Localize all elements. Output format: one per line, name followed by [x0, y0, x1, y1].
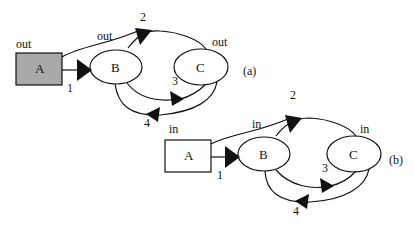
- edge-label-3: 3: [172, 74, 178, 88]
- arrowhead-1-icon: [77, 59, 92, 81]
- node-b-label: B: [259, 147, 268, 162]
- node-b-label: B: [111, 60, 120, 75]
- port-label-b: out: [97, 29, 113, 43]
- port-label-a: in: [169, 122, 178, 136]
- edge-3: [276, 170, 356, 187]
- edge-label-2: 2: [290, 88, 296, 102]
- node-c-label: C: [196, 60, 205, 75]
- edge-label-4: 4: [293, 204, 299, 218]
- edge-label-3: 3: [322, 161, 328, 175]
- edge-label-1: 1: [67, 81, 73, 95]
- caption-a: (a): [243, 64, 256, 78]
- port-label-c: out: [212, 35, 228, 49]
- arrowhead-2-icon: [135, 28, 152, 45]
- edge-3: [127, 83, 205, 100]
- arrowhead-1-icon: [225, 146, 240, 168]
- port-label-b: in: [252, 117, 261, 131]
- node-c-label: C: [349, 147, 358, 162]
- edge-label-2: 2: [140, 10, 146, 24]
- node-a-label: A: [35, 61, 45, 76]
- port-label-c: in: [360, 122, 369, 136]
- edge-label-1: 1: [217, 168, 223, 182]
- arrowhead-3-icon: [170, 91, 184, 106]
- caption-b: (b): [389, 153, 403, 167]
- node-a-label: A: [184, 148, 194, 163]
- port-label-a: out: [16, 37, 32, 51]
- arrowhead-2-icon: [285, 115, 302, 133]
- arrowhead-3-icon: [320, 178, 334, 193]
- diagram-canvas: A B C out out out 1 2 3 4 (a) A B C in i…: [0, 0, 414, 227]
- edge-label-4: 4: [144, 116, 150, 130]
